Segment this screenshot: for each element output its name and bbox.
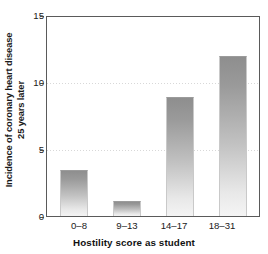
x-tick-label-18-31: 18–31 <box>194 220 250 232</box>
y-axis-tick-labels: 15 10 5 0 <box>18 0 44 254</box>
x-axis-tick-labels: 0–8 9–13 14–17 18–31 <box>46 220 260 234</box>
bar-0-8[interactable] <box>60 170 88 216</box>
plot-area <box>46 16 260 217</box>
y-tick-mark-15 <box>40 16 44 17</box>
bar-chart-figure: Incidence of coronary heart disease 25 y… <box>0 0 268 254</box>
bar-9-13[interactable] <box>113 201 141 216</box>
y-tick-mark-0 <box>40 217 44 218</box>
y-tick-mark-5 <box>40 150 44 151</box>
bar-14-17[interactable] <box>166 97 194 216</box>
bar-18-31[interactable] <box>219 56 247 217</box>
y-axis-title-line-1: Incidence of coronary heart disease <box>3 33 14 188</box>
x-axis-title: Hostility score as student <box>0 237 268 248</box>
y-tick-mark-10 <box>40 83 44 84</box>
